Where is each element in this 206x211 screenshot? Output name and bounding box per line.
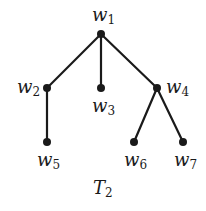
label-w6: w6: [124, 151, 147, 171]
label-w7: w7: [174, 151, 197, 171]
node-w6: [130, 138, 138, 146]
edge-w1-w2: [47, 34, 101, 88]
edge-w1-w4: [101, 34, 157, 88]
label-w1: w1: [92, 6, 115, 26]
tree-diagram: w1 w2 w3 w4 w5 w6 w7 T2: [0, 0, 206, 211]
edge-w4-w6: [134, 88, 157, 142]
label-w4: w4: [166, 78, 189, 98]
node-w1: [97, 30, 105, 38]
label-w5: w5: [37, 151, 60, 171]
label-w2: w2: [17, 78, 40, 98]
label-w3: w3: [92, 97, 115, 117]
node-w2: [43, 84, 51, 92]
node-w7: [179, 138, 187, 146]
diagram-title: T2: [93, 179, 113, 199]
node-w4: [153, 84, 161, 92]
node-w5: [43, 138, 51, 146]
node-w3: [97, 84, 105, 92]
